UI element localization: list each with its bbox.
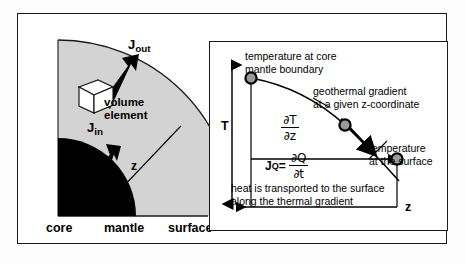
formula-flux-numerator: ∂Q: [289, 151, 309, 166]
flux-in-label: Jin: [87, 121, 103, 137]
formula-flux-symbol: J: [265, 159, 272, 173]
annotation-core-mantle-boundary: temperature at core mantle boundary: [245, 50, 337, 76]
mantle-label: mantle: [104, 221, 144, 235]
heat-flow-figure: Jout Jin volume element z core mantle su…: [0, 0, 465, 264]
depth-axis-label: z: [131, 160, 137, 173]
formula-heat-flux: JQ= ∂Q ∂t: [265, 151, 308, 181]
formula-flux-denominator: ∂t: [289, 166, 309, 181]
geotherm-plot-panel: T z temperature at core mantle boundary …: [209, 41, 448, 231]
temperature-axis-label: T: [221, 119, 229, 133]
annotation-heat-transport: heat is transported to the surface along…: [231, 182, 385, 208]
formula-flux-subscript: Q: [272, 161, 279, 171]
marker-geothermal-gradient: [339, 119, 350, 130]
figure-outer-frame: Jout Jin volume element z core mantle su…: [17, 13, 447, 244]
annotation-surface-line2: at the surface: [369, 155, 433, 168]
annotation-heat-line2: along the thermal gradient: [231, 195, 385, 208]
formula-flux-equals: =: [279, 159, 286, 173]
annotation-geothermal-gradient: geothermal gradient at a given z-coordin…: [313, 85, 419, 111]
earth-cross-section-panel: Jout Jin volume element z core mantle su…: [18, 14, 223, 243]
core-label: core: [46, 221, 72, 235]
surface-label: surface: [168, 221, 212, 235]
formula-gradient-denominator: ∂z: [281, 128, 299, 143]
annotation-gradient-line2: at a given z-coordinate: [313, 98, 419, 111]
formula-gradient-numerator: ∂T: [281, 113, 299, 128]
depth-axis-label-right: z: [405, 200, 411, 214]
annotation-cmb-line1: temperature at core: [245, 50, 337, 63]
flux-out-label: Jout: [128, 38, 151, 54]
annotation-gradient-line1: geothermal gradient: [313, 85, 419, 98]
annotation-surface-line1: temperature: [369, 142, 433, 155]
formula-flux-fraction: ∂Q ∂t: [289, 151, 309, 181]
earth-cross-section-graphic: [18, 14, 223, 243]
annotation-surface-temperature: temperature at the surface: [369, 142, 433, 168]
volume-element-label: volume element: [104, 96, 147, 122]
volume-element-line1: volume: [104, 96, 147, 109]
volume-element-line2: element: [104, 109, 147, 122]
annotation-heat-line1: heat is transported to the surface: [231, 182, 385, 195]
formula-geothermal-gradient: ∂T ∂z: [281, 113, 299, 143]
annotation-cmb-line2: mantle boundary: [245, 63, 337, 76]
